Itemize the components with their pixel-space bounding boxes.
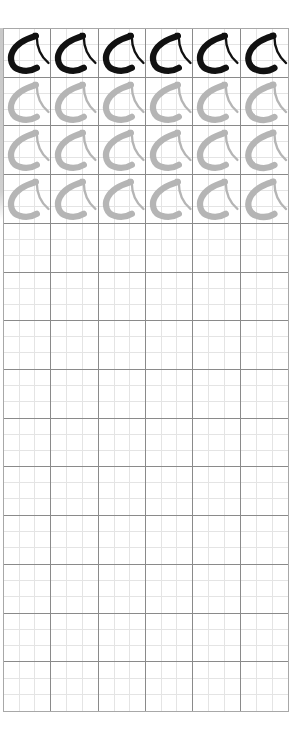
practice-cell-empty xyxy=(241,273,288,322)
calligraphy-glyph-icon xyxy=(51,175,97,223)
practice-cell-empty xyxy=(193,614,240,663)
practice-cell-empty xyxy=(99,614,146,663)
practice-cell-empty xyxy=(99,370,146,419)
calligraphy-glyph-icon xyxy=(241,126,288,174)
practice-cell-empty xyxy=(146,224,193,273)
calligraphy-glyph-icon xyxy=(241,29,288,77)
practice-cell-trace xyxy=(193,78,240,127)
practice-cell-trace xyxy=(99,175,146,224)
calligraphy-glyph-icon xyxy=(99,126,145,174)
practice-cell-trace xyxy=(4,78,51,127)
practice-cell-trace xyxy=(99,78,146,127)
practice-cell-empty xyxy=(4,516,51,565)
practice-cell-empty xyxy=(193,273,240,322)
practice-cell-empty xyxy=(241,321,288,370)
practice-cell-empty xyxy=(241,370,288,419)
practice-cell-empty xyxy=(4,273,51,322)
practice-cell-empty xyxy=(193,565,240,614)
practice-cell-empty xyxy=(99,662,146,711)
practice-cell-trace xyxy=(146,78,193,127)
practice-cell-empty xyxy=(4,370,51,419)
practice-cell-empty xyxy=(193,321,240,370)
calligraphy-glyph-icon xyxy=(99,29,145,77)
practice-cell-empty xyxy=(4,224,51,273)
practice-cell-empty xyxy=(51,370,98,419)
calligraphy-glyph-icon xyxy=(51,78,97,126)
practice-cell-empty xyxy=(193,662,240,711)
practice-cell-empty xyxy=(99,516,146,565)
practice-cell-empty xyxy=(146,467,193,516)
practice-cell-empty xyxy=(51,614,98,663)
calligraphy-glyph-icon xyxy=(99,78,145,126)
practice-cell-empty xyxy=(51,224,98,273)
practice-cell-empty xyxy=(99,273,146,322)
calligraphy-glyph-icon xyxy=(51,29,97,77)
practice-cell-trace xyxy=(51,126,98,175)
practice-cell-trace xyxy=(99,126,146,175)
calligraphy-glyph-icon xyxy=(4,126,50,174)
calligraphy-glyph-icon xyxy=(4,175,50,223)
calligraphy-glyph-icon xyxy=(193,175,239,223)
practice-cell-empty xyxy=(241,224,288,273)
calligraphy-glyph-icon xyxy=(51,126,97,174)
practice-cell-empty xyxy=(193,370,240,419)
practice-cell-empty xyxy=(241,467,288,516)
practice-cell-empty xyxy=(51,467,98,516)
calligraphy-glyph-icon xyxy=(4,29,50,77)
calligraphy-glyph-icon xyxy=(4,78,50,126)
calligraphy-glyph-icon xyxy=(146,29,192,77)
practice-cell-trace xyxy=(51,175,98,224)
practice-cell-example xyxy=(193,29,240,78)
calligraphy-glyph-icon xyxy=(241,175,288,223)
practice-cell-empty xyxy=(241,662,288,711)
practice-cell-empty xyxy=(146,419,193,468)
practice-cell-empty xyxy=(146,565,193,614)
practice-cell-trace xyxy=(193,126,240,175)
practice-cell-empty xyxy=(99,321,146,370)
practice-cell-empty xyxy=(146,614,193,663)
practice-cell-example xyxy=(4,29,51,78)
practice-cell-empty xyxy=(4,419,51,468)
practice-cell-example xyxy=(241,29,288,78)
practice-cell-empty xyxy=(4,467,51,516)
practice-cell-example xyxy=(146,29,193,78)
practice-cell-empty xyxy=(241,516,288,565)
practice-cell-trace xyxy=(193,175,240,224)
practice-cell-empty xyxy=(241,614,288,663)
practice-cell-empty xyxy=(193,467,240,516)
practice-grid xyxy=(3,28,289,712)
practice-cell-empty xyxy=(146,370,193,419)
practice-cell-empty xyxy=(51,565,98,614)
practice-cell-trace xyxy=(146,175,193,224)
practice-cell-empty xyxy=(146,662,193,711)
practice-cell-empty xyxy=(4,565,51,614)
practice-cell-example xyxy=(99,29,146,78)
practice-cell-example xyxy=(51,29,98,78)
practice-cell-empty xyxy=(51,662,98,711)
practice-cell-empty xyxy=(51,516,98,565)
practice-cell-empty xyxy=(4,614,51,663)
practice-cell-empty xyxy=(193,419,240,468)
practice-cell-empty xyxy=(241,565,288,614)
practice-cell-empty xyxy=(4,321,51,370)
practice-cell-trace xyxy=(51,78,98,127)
practice-cell-empty xyxy=(51,273,98,322)
practice-cell-trace xyxy=(4,175,51,224)
calligraphy-glyph-icon xyxy=(193,29,239,77)
practice-cell-trace xyxy=(241,126,288,175)
practice-cell-empty xyxy=(51,321,98,370)
calligraphy-glyph-icon xyxy=(146,126,192,174)
calligraphy-glyph-icon xyxy=(146,175,192,223)
calligraphy-glyph-icon xyxy=(146,78,192,126)
practice-cell-empty xyxy=(99,467,146,516)
practice-cell-trace xyxy=(146,126,193,175)
practice-cell-empty xyxy=(99,419,146,468)
practice-cell-empty xyxy=(51,419,98,468)
practice-cell-empty xyxy=(146,516,193,565)
practice-cell-trace xyxy=(4,126,51,175)
practice-cell-trace xyxy=(241,175,288,224)
practice-cell-empty xyxy=(99,565,146,614)
practice-cell-empty xyxy=(146,321,193,370)
practice-cell-empty xyxy=(146,273,193,322)
calligraphy-glyph-icon xyxy=(241,78,288,126)
